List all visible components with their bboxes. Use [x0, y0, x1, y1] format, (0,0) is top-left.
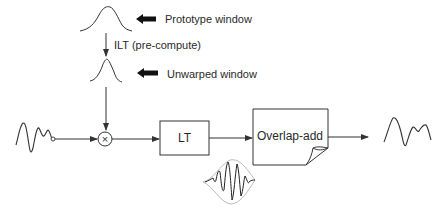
prototype-window-curve [80, 7, 132, 31]
signal-flow-diagram: × LT Overlap-add [0, 0, 447, 213]
input-signal-waveform [16, 123, 52, 152]
lt-block-label: LT [178, 131, 192, 145]
unwarped-pointer-arrow-icon [137, 68, 158, 78]
output-signal-waveform [384, 118, 431, 146]
overlap-add-block-label: Overlap-add [257, 129, 323, 143]
multiplier-symbol: × [102, 133, 108, 145]
unwarped-window-curve [90, 59, 122, 82]
unwarped-window-label: Unwarped window [167, 69, 257, 80]
prototype-pointer-arrow-icon [136, 14, 156, 24]
prototype-window-label: Prototype window [165, 14, 252, 25]
input-terminal [51, 137, 55, 141]
ilt-label: ILT (pre-compute) [114, 40, 201, 51]
wavelet-signal-icon [205, 162, 255, 200]
